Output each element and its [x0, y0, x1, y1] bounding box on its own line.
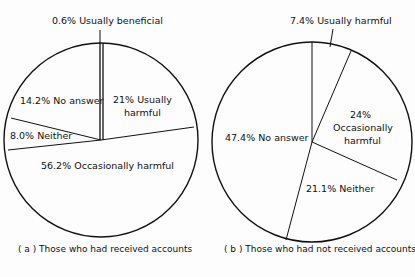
label-b-no-answer: 47.4% No answer: [225, 132, 309, 143]
label-b-usually-harmful: 7.4% Usually harmful: [290, 15, 392, 26]
label-a-neither: 8.0% Neither: [10, 130, 72, 141]
label-b-occasionally-line2: Occasionally: [333, 122, 393, 133]
caption-a: ( a ) Those who had received accounts: [18, 244, 192, 254]
caption-b: ( b ) Those who had not received account…: [224, 244, 415, 254]
label-b-occasionally-line1: 24%: [350, 109, 371, 120]
label-a-usually-harmful-line1: 21% Usually: [113, 94, 172, 105]
label-b-occasionally-line3: harmful: [344, 135, 381, 146]
label-a-usually-harmful-line2: harmful: [124, 107, 161, 118]
pie-a-divider-occasional: [8, 140, 101, 150]
label-a-occasionally-harmful: 56.2% Occasionally harmful: [41, 160, 174, 171]
pie-a-divider-harmful: [101, 127, 194, 140]
pie-b-divider-occasional: [312, 142, 397, 180]
pie-charts: 0.6% Usually beneficial 21% Usually harm…: [0, 0, 415, 277]
label-a-usually-beneficial: 0.6% Usually beneficial: [52, 15, 163, 26]
label-a-no-answer: 14.2% No answer: [20, 95, 104, 106]
label-b-neither: 21.1% Neither: [306, 183, 374, 194]
